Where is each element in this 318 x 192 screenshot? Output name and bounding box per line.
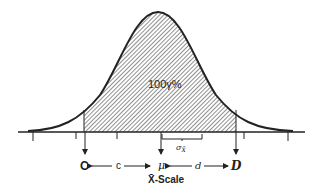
label-d-distance: d <box>195 160 201 171</box>
label-c-distance: c <box>116 160 121 171</box>
label-mu: μ <box>158 159 165 172</box>
sigma-bracket <box>162 134 202 141</box>
shaded-region <box>28 12 293 132</box>
normal-distribution-diagram: σX̄ 100γ% C c μ d D X̄-Scale <box>0 0 318 192</box>
sigma-label: σX̄ <box>176 143 186 153</box>
axis-title: X̄-Scale <box>148 174 185 185</box>
coverage-label: 100γ% <box>148 78 182 90</box>
label-d-bound: D <box>230 159 242 173</box>
label-c-bound: C <box>80 159 89 173</box>
